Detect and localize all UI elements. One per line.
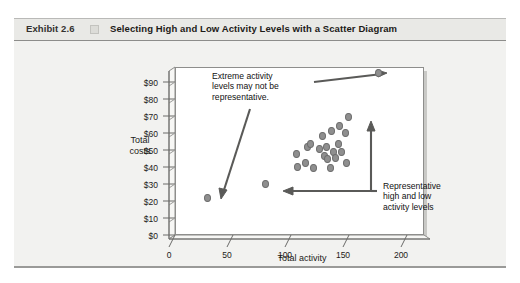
y-tick-label-0: $0 xyxy=(124,231,158,241)
x-axis-title: Total activity xyxy=(227,253,377,263)
y-tick-label-90: $90 xyxy=(124,78,158,88)
data-point-cluster xyxy=(328,127,335,135)
data-point-representative-low xyxy=(262,180,269,188)
header-separator-swatch-icon xyxy=(90,25,99,34)
y-tick-label-50: $50 xyxy=(124,146,158,156)
y-tick-label-60: $60 xyxy=(124,129,158,139)
data-point-cluster xyxy=(319,132,326,140)
x-tick-label-200: 200 xyxy=(386,250,416,260)
data-point-cluster xyxy=(327,164,334,172)
exhibit-card: Exhibit 2.6 Selecting High and Low Activ… xyxy=(14,18,506,268)
exhibit-screenshot: Exhibit 2.6 Selecting High and Low Activ… xyxy=(0,0,520,283)
annotation-extreme-activity: Extreme activity levels may not be repre… xyxy=(212,71,332,102)
data-point-cluster xyxy=(294,163,301,171)
y-tick-label-80: $80 xyxy=(124,95,158,105)
y-tick-label-20: $20 xyxy=(124,197,158,207)
y-tick-label-40: $40 xyxy=(124,163,158,173)
arrow-to-representative-high xyxy=(367,121,375,191)
scatter-diagram: Total costs $90 $80 $70 $60 $50 $40 $30 … xyxy=(14,41,506,267)
annotation-representative-levels: Representative high and low activity lev… xyxy=(383,181,475,212)
arrow-to-extreme-low xyxy=(219,109,250,199)
data-point-cluster xyxy=(335,140,342,148)
exhibit-title: Selecting High and Low Activity Levels w… xyxy=(110,23,397,34)
arrow-to-representative-low xyxy=(283,187,377,195)
y-tick-label-10: $10 xyxy=(124,214,158,224)
x-tick-label-0: 0 xyxy=(154,250,184,260)
axis-depth-wedge-bottom xyxy=(169,235,430,239)
data-point-cluster xyxy=(342,129,349,137)
data-point-cluster xyxy=(336,122,343,130)
exhibit-number: Exhibit 2.6 xyxy=(26,23,75,34)
y-tick-label-70: $70 xyxy=(124,112,158,122)
data-point-cluster xyxy=(307,140,314,148)
y-tick-label-30: $30 xyxy=(124,180,158,190)
exhibit-header: Exhibit 2.6 Selecting High and Low Activ… xyxy=(14,19,506,41)
data-point-cluster xyxy=(343,159,350,167)
